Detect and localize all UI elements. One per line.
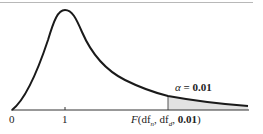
crit-open: (df — [138, 113, 151, 125]
tick-label-1: 1 — [62, 114, 68, 125]
tick-label-0: 0 — [9, 114, 15, 125]
crit-close: ) — [197, 113, 201, 125]
density-curve — [12, 10, 248, 110]
crit-sep: , df — [154, 113, 169, 125]
f-func: F — [131, 113, 138, 125]
alpha-value: 0.01 — [193, 81, 212, 93]
alpha-eq: = — [181, 81, 193, 93]
critical-value-label: F(dfn, dfd, 0.01) — [131, 114, 201, 128]
alpha-label: α = 0.01 — [175, 82, 212, 93]
crit-alpha: 0.01 — [178, 113, 197, 125]
